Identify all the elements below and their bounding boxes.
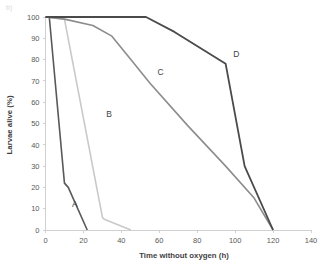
series-labels-group: ABCD (72, 49, 239, 208)
series-label-c: C (157, 67, 163, 77)
y-tick-label: 50 (31, 119, 39, 128)
y-tick-label: 60 (31, 98, 39, 107)
x-tick-label: 120 (267, 236, 280, 245)
series-label-b: B (106, 109, 112, 119)
y-tick-label: 90 (31, 34, 39, 43)
y-tick-label: 100 (27, 13, 40, 22)
x-tick-label: 0 (43, 236, 47, 245)
panel-letter-label: b) (6, 4, 12, 12)
chart-container: b) 0102030405060708090100 02040608010012… (0, 0, 322, 268)
x-axis-title: Time without oxygen (h) (139, 251, 229, 260)
series-label-a: A (72, 199, 78, 209)
y-axis-title: Larvae alive (%) (5, 95, 14, 154)
y-tick-label: 10 (31, 204, 39, 213)
x-tick-label: 40 (117, 236, 125, 245)
y-tick-label: 80 (31, 55, 39, 64)
x-axis: 020406080100120140 (43, 230, 317, 245)
y-tick-label: 20 (31, 183, 39, 192)
y-tick-label: 0 (35, 226, 39, 235)
x-tick-label: 140 (305, 236, 318, 245)
y-axis: 0102030405060708090100 (27, 13, 46, 235)
larvae-survival-line-chart: b) 0102030405060708090100 02040608010012… (0, 0, 322, 268)
series-label-d: D (233, 49, 239, 59)
series-line-a (46, 17, 88, 230)
y-tick-label: 70 (31, 77, 39, 86)
x-tick-label: 60 (155, 236, 163, 245)
y-tick-label: 30 (31, 162, 39, 171)
x-tick-label: 80 (193, 236, 201, 245)
x-tick-label: 100 (229, 236, 242, 245)
x-tick-label: 20 (79, 236, 87, 245)
y-tick-label: 40 (31, 141, 39, 150)
